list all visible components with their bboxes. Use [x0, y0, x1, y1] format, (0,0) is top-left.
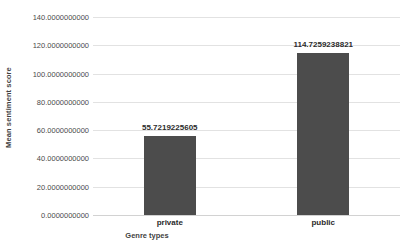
y-axis-tick-label: 120.0000000000 [1, 41, 89, 50]
x-axis-title: Genre types [0, 231, 418, 240]
y-axis-tick-label: 100.0000000000 [1, 69, 89, 78]
gridline [93, 17, 400, 18]
y-axis-tick-label: 80.0000000000 [1, 97, 89, 106]
y-axis-tick-label: 20.0000000000 [1, 182, 89, 191]
bar-private[interactable] [144, 136, 196, 215]
gridline [93, 187, 400, 188]
x-axis-category-label: public [311, 218, 335, 227]
bar-value-label: 55.7219225605 [142, 123, 198, 132]
gridline [93, 215, 400, 216]
gridline [93, 158, 400, 159]
gridline [93, 74, 400, 75]
bar-value-label: 114.7259238821 [293, 40, 353, 49]
plot-area: 55.7219225605114.7259238821 [93, 17, 400, 215]
x-axis-category-labels: privatepublic [93, 218, 400, 232]
gridline [93, 45, 400, 46]
gridline [93, 102, 400, 103]
bar-public[interactable] [297, 53, 349, 215]
y-axis-tick-label: 140.0000000000 [1, 13, 89, 22]
x-axis-category-label: private [157, 218, 183, 227]
gridline [93, 130, 400, 131]
y-axis-tick-labels: 0.000000000020.000000000040.000000000060… [0, 17, 89, 215]
bar-chart: Mean sentiment score 0.000000000020.0000… [0, 0, 418, 250]
y-axis-tick-label: 0.0000000000 [1, 211, 89, 220]
y-axis-tick-label: 60.0000000000 [1, 126, 89, 135]
y-axis-tick-label: 40.0000000000 [1, 154, 89, 163]
x-axis-title-label: Genre types [125, 231, 168, 240]
